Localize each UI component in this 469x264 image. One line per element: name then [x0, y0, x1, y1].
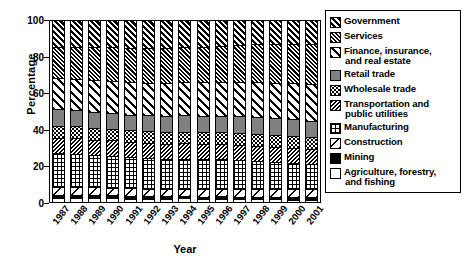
legend-item-wholesale[interactable]: Wholesale trade [330, 84, 457, 96]
bar-1991[interactable] [124, 21, 137, 202]
legend-item-services[interactable]: Services [330, 31, 457, 43]
bar-1999[interactable] [269, 21, 282, 202]
legend-label-mining: Mining [344, 152, 374, 162]
bar-segment-agriculture [270, 199, 281, 202]
bar-segment-finance [270, 83, 281, 118]
bar-segment-transportation [53, 138, 64, 154]
bar-segment-transportation [107, 140, 118, 155]
bar-segment-wholesale [288, 136, 299, 148]
bar-segment-services [89, 47, 100, 80]
bar-segment-government [53, 21, 64, 47]
bar-1994[interactable] [178, 21, 191, 202]
legend-swatch-retail-icon [330, 70, 341, 81]
legend-label-government: Government [344, 16, 400, 26]
bar-segment-manufacturing [125, 157, 136, 188]
bar-segment-wholesale [71, 126, 82, 138]
bar-segment-agriculture [234, 199, 245, 202]
bar-segment-government [143, 21, 154, 48]
bar-segment-transportation [161, 144, 172, 159]
bar-segment-agriculture [71, 198, 82, 202]
bar-segment-finance [71, 79, 82, 110]
bar-segment-manufacturing [89, 155, 100, 188]
bar-segment-services [252, 44, 263, 82]
bar-segment-construction [270, 189, 281, 197]
bar-1997[interactable] [233, 21, 246, 202]
bar-segment-government [161, 21, 172, 48]
bar-2001[interactable] [305, 21, 318, 202]
bar-segment-finance [198, 82, 209, 115]
bar-segment-construction [89, 187, 100, 195]
bar-2000[interactable] [287, 21, 300, 202]
bar-segment-transportation [270, 147, 281, 162]
legend-label-retail: Retail trade [344, 69, 395, 79]
legend-item-government[interactable]: Government [330, 16, 457, 28]
bar-segment-agriculture [288, 200, 299, 202]
bar-segment-services [216, 46, 227, 82]
bar-segment-agriculture [107, 198, 118, 202]
legend-item-agriculture[interactable]: Agriculture, forestry,and fishing [330, 167, 457, 187]
bar-segment-manufacturing [216, 159, 227, 189]
bar-segment-manufacturing [107, 156, 118, 188]
bar-segment-retail [161, 116, 172, 132]
bar-segment-finance [161, 83, 172, 116]
bar-segment-finance [216, 82, 227, 116]
bar-segment-construction [107, 188, 118, 196]
bar-1998[interactable] [251, 21, 264, 202]
bar-segment-manufacturing [234, 160, 245, 189]
bar-segment-services [125, 48, 136, 82]
y-tick-60: 60 [14, 88, 44, 99]
bar-segment-agriculture [179, 198, 190, 201]
legend-item-finance[interactable]: Finance, insurance,and real estate [330, 46, 457, 66]
bar-1990[interactable] [106, 21, 119, 202]
bar-segment-wholesale [216, 132, 227, 144]
bar-segment-services [71, 47, 82, 79]
bar-1989[interactable] [88, 21, 101, 202]
bar-1996[interactable] [215, 21, 228, 202]
bar-1995[interactable] [197, 21, 210, 202]
bar-1987[interactable] [52, 21, 65, 202]
bar-segment-wholesale [53, 126, 64, 138]
bar-segment-manufacturing [179, 159, 190, 189]
legend-label-wholesale: Wholesale trade [344, 84, 416, 94]
bar-segment-retail [252, 117, 263, 134]
y-tick-80: 80 [14, 51, 44, 62]
legend-item-retail[interactable]: Retail trade [330, 69, 457, 81]
bar-segment-government [71, 21, 82, 47]
legend-item-manufacturing[interactable]: Manufacturing [330, 122, 457, 134]
legend-item-transportation[interactable]: Transportation andpublic utilities [330, 99, 457, 119]
bar-1988[interactable] [70, 21, 83, 202]
bar-segment-agriculture [198, 199, 209, 202]
legend-item-mining[interactable]: Mining [330, 152, 457, 164]
bar-segment-government [125, 21, 136, 48]
bar-segment-wholesale [179, 132, 190, 144]
legend-item-construction[interactable]: Construction [330, 137, 457, 149]
bar-segment-retail [53, 109, 64, 125]
bar-segment-transportation [89, 140, 100, 155]
bar-segment-wholesale [107, 129, 118, 141]
bar-segment-transportation [71, 138, 82, 154]
bar-segment-construction [252, 189, 263, 197]
chart-legend: GovernmentServicesFinance, insurance,and… [325, 10, 461, 193]
bar-segment-manufacturing [270, 162, 281, 189]
bar-segment-government [252, 21, 263, 44]
bar-1992[interactable] [142, 21, 155, 202]
bar-segment-services [107, 47, 118, 80]
bar-segment-manufacturing [143, 158, 154, 189]
bar-segment-construction [234, 189, 245, 197]
bar-segment-transportation [125, 142, 136, 157]
bar-segment-retail [198, 116, 209, 132]
bar-segment-transportation [216, 144, 227, 159]
bar-segment-construction [216, 189, 227, 196]
bar-segment-agriculture [252, 199, 263, 202]
bar-segment-services [198, 47, 209, 83]
bar-segment-construction [161, 189, 172, 196]
bar-1993[interactable] [160, 21, 173, 202]
bar-segment-transportation [198, 144, 209, 159]
bar-segment-manufacturing [53, 153, 64, 186]
bar-segment-government [270, 21, 281, 44]
bar-segment-government [89, 21, 100, 47]
bar-segment-services [234, 45, 245, 82]
bar-segment-retail [288, 119, 299, 136]
bar-segment-construction [179, 189, 190, 196]
bar-segment-finance [252, 82, 263, 117]
